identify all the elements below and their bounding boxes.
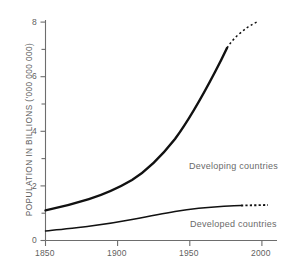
x-tick-label-2000: 2000 xyxy=(251,248,271,258)
x-tick-label-1950: 1950 xyxy=(179,248,199,258)
series-label-developed: Developed countries xyxy=(190,219,277,229)
x-tick-label-1900: 1900 xyxy=(107,248,127,258)
population-growth-chart: 8 6 4 2 0 1850 1900 1950 2000 POPULATION… xyxy=(0,0,296,270)
series-developing-solid xyxy=(46,48,228,210)
series-developing-projection xyxy=(227,22,258,49)
chart-plot-area xyxy=(0,0,296,270)
y-tick-label-8: 8 xyxy=(26,17,37,27)
y-axis-major-ticks xyxy=(41,22,46,240)
series-developed-projection xyxy=(241,205,268,206)
x-axis-ticks xyxy=(46,241,262,247)
y-tick-label-0: 0 xyxy=(26,235,37,245)
series-label-developing: Developing countries xyxy=(189,161,278,171)
y-axis-title: POPULATION IN BILLIONS ('000 000 000) xyxy=(25,30,34,230)
x-tick-label-1850: 1850 xyxy=(35,248,55,258)
